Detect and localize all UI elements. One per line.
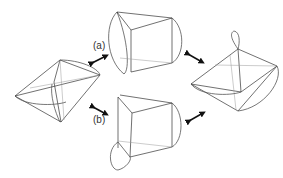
arrow-bottom-right: [189, 113, 203, 121]
arrow-top-right: [188, 54, 202, 62]
arrow-b: [93, 107, 106, 114]
label-b: (b): [93, 114, 105, 125]
diagram-canvas: [0, 0, 283, 178]
left-shape: [15, 60, 100, 122]
bottom-shape: [110, 95, 181, 170]
label-a: (a): [93, 40, 105, 51]
top-shape: [109, 12, 182, 74]
arrow-a: [92, 56, 106, 63]
right-shape: [191, 31, 278, 111]
